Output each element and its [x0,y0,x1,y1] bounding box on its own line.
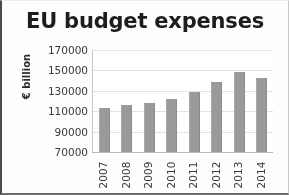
x-axis-tick-labels: 20072008200920102011201220132014 [92,153,272,195]
x-axis-tick-label: 2009 [142,158,154,192]
y-axis-tick-label: 130000 [34,86,88,96]
x-axis-tick: 2009 [142,153,154,195]
y-axis-title: € billion [21,42,32,112]
bar [211,82,222,152]
bar [99,108,110,152]
x-axis-tick-label: 2008 [120,158,132,192]
bar [166,99,177,152]
bar [189,92,200,152]
y-axis-tick-labels: 1700001500001300001100009000070000 [34,43,88,159]
x-axis-tick: 2008 [120,153,132,195]
x-axis-tick: 2012 [210,153,222,195]
x-axis-tick-label: 2007 [97,158,109,192]
plot-area [92,50,273,153]
x-axis-tick: 2010 [165,153,177,195]
bar-series [93,50,273,152]
x-axis-tick-label: 2014 [255,158,267,192]
x-axis-tick: 2011 [187,153,199,195]
x-axis-tick: 2013 [232,153,244,195]
y-axis-tick-label: 70000 [34,147,88,157]
y-axis-tick-label: 90000 [34,127,88,137]
chart-image: EU budget expenses € billion 17000015000… [0,0,289,195]
bar [256,78,267,152]
x-axis-tick-label: 2012 [210,158,222,192]
y-axis-tick-label: 150000 [34,65,88,75]
x-axis-tick: 2014 [255,153,267,195]
x-axis-tick-label: 2013 [232,158,244,192]
bar [234,72,245,152]
chart-title: EU budget expenses [2,9,288,33]
x-axis-tick-label: 2011 [187,158,199,192]
bar [121,105,132,152]
x-axis-tick: 2007 [97,153,109,195]
y-axis-tick-label: 110000 [34,106,88,116]
y-axis-tick-label: 170000 [34,45,88,55]
bar [144,103,155,152]
x-axis-tick-label: 2010 [165,158,177,192]
